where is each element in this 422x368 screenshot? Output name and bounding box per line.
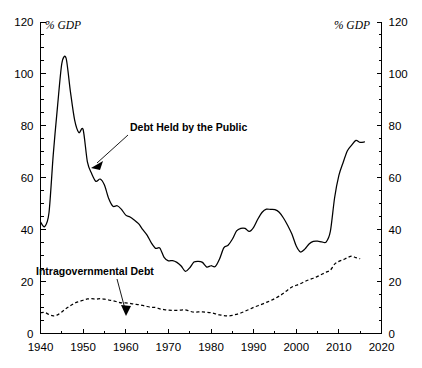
gdp-debt-chart: % GDP % GDP 020406080100120 020406080100… [0, 0, 422, 368]
chart-canvas: % GDP % GDP 020406080100120 020406080100… [0, 0, 422, 368]
x-tick-label-2000: 2000 [283, 341, 309, 353]
annotation-debt-held-by-public: Debt Held by the Public [130, 121, 247, 133]
x-tick-label-1960: 1960 [113, 341, 139, 353]
right-tick-label-0: 0 [389, 328, 395, 340]
series-line-debt-held-by-public [41, 56, 365, 271]
x-tick-label-1950: 1950 [70, 341, 96, 353]
x-tick-label-1940: 1940 [28, 341, 54, 353]
x-axis-ticks [41, 329, 382, 334]
left-tick-label-0: 0 [27, 328, 33, 340]
right-tick-label-60: 60 [389, 172, 402, 184]
intragov-leader-line [117, 279, 125, 309]
right-tick-label-100: 100 [389, 68, 408, 80]
x-tick-label-2010: 2010 [326, 341, 352, 353]
x-tick-label-1980: 1980 [198, 341, 224, 353]
x-tick-label-2020: 2020 [369, 341, 395, 353]
right-tick-label-80: 80 [389, 120, 402, 132]
x-axis-tick-labels: 194019501960197019801990200020102020 [28, 341, 395, 353]
left-tick-label-120: 120 [14, 16, 33, 28]
right-axis-tick-labels: 020406080100120 [389, 16, 408, 340]
public-leader-arrowhead [91, 161, 103, 170]
left-tick-label-20: 20 [21, 276, 34, 288]
x-tick-label-1990: 1990 [241, 341, 267, 353]
annotation-intragovernmental-debt: Intragovernmental Debt [36, 265, 154, 277]
right-axis-unit-label: % GDP [334, 19, 370, 31]
right-tick-label-120: 120 [389, 16, 408, 28]
left-tick-label-100: 100 [14, 68, 33, 80]
left-tick-label-60: 60 [21, 172, 34, 184]
left-axis-tick-labels: 020406080100120 [14, 16, 33, 340]
left-axis-ticks [41, 22, 46, 334]
left-tick-label-80: 80 [21, 120, 34, 132]
left-tick-label-40: 40 [21, 224, 34, 236]
right-tick-label-20: 20 [389, 276, 402, 288]
right-axis-ticks [377, 22, 382, 334]
left-axis-unit-label: % GDP [45, 19, 81, 31]
intragov-leader-arrowhead [121, 305, 131, 316]
right-tick-label-40: 40 [389, 224, 402, 236]
x-tick-label-1970: 1970 [156, 341, 182, 353]
public-leader-line [97, 135, 128, 163]
